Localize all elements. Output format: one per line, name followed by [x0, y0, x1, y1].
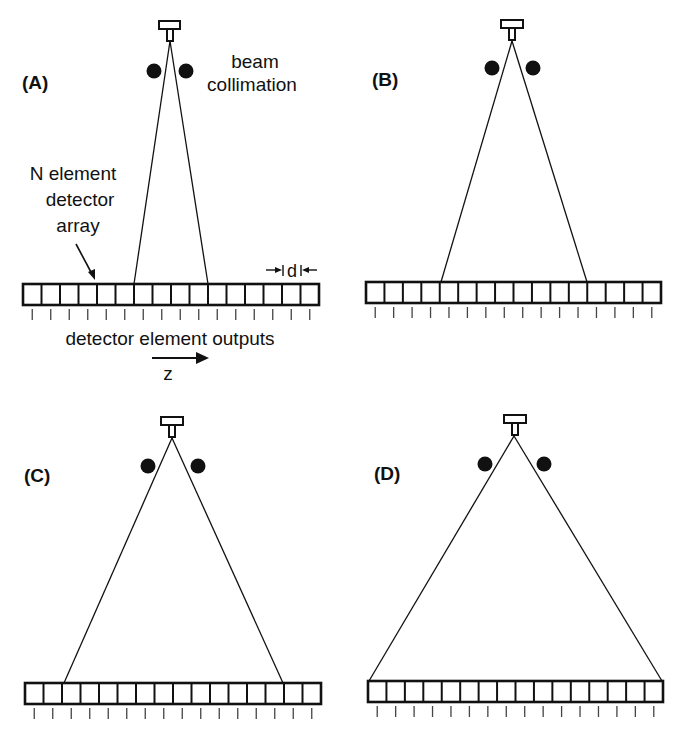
- detector-output-leads: [375, 307, 652, 318]
- panel-d: (D): [368, 415, 663, 717]
- panel-c: (C): [24, 417, 321, 719]
- z-axis-label: z: [163, 363, 173, 384]
- z-direction-arrow: [152, 352, 209, 364]
- detector-output-leads: [34, 708, 312, 719]
- collimation-label-line2: collimation: [207, 74, 297, 95]
- collimator-jaws: [485, 61, 541, 76]
- array-pointer-arrow: [76, 244, 95, 280]
- array-label-line3: array: [56, 215, 100, 236]
- panel-label-b: (B): [372, 69, 398, 90]
- panel-label-a: (A): [22, 72, 48, 93]
- xray-source-icon: [159, 21, 180, 41]
- collimator-left-icon: [141, 459, 156, 474]
- collimator-left-icon: [478, 457, 493, 472]
- xray-beam-fan: [369, 436, 662, 681]
- array-label-line1: N element: [30, 163, 117, 184]
- collimator-right-icon: [537, 457, 552, 472]
- xray-beam-fan: [64, 438, 283, 683]
- collimator-left-icon: [147, 64, 162, 79]
- beam-label-line1: beam: [231, 51, 279, 72]
- collimator-left-icon: [485, 61, 500, 76]
- xray-source-icon: [504, 415, 526, 435]
- collimator-right-icon: [526, 61, 541, 76]
- collimator-jaws: [141, 459, 206, 474]
- detector-output-leads: [377, 706, 654, 717]
- collimator-jaws: [147, 64, 194, 79]
- collimator-right-icon: [191, 459, 206, 474]
- array-label-line2: detector: [46, 189, 115, 210]
- xray-source-icon: [161, 417, 183, 437]
- outputs-label: detector element outputs: [65, 328, 274, 349]
- panel-b: (B): [366, 20, 661, 318]
- ct-detector-diagram: (A)(B)(C)(D) beam collimation N element …: [0, 0, 678, 731]
- xray-source-icon: [501, 20, 523, 40]
- collimator-jaws: [478, 457, 552, 472]
- detector-array: [25, 683, 321, 704]
- pitch-label: d: [287, 261, 297, 281]
- collimator-right-icon: [179, 64, 194, 79]
- detector-array: [368, 681, 663, 702]
- detector-array: [23, 284, 319, 305]
- detector-output-leads: [32, 309, 310, 320]
- panels: (A)(B)(C)(D): [22, 20, 663, 719]
- detector-array: [366, 282, 661, 303]
- xray-beam-fan: [441, 41, 587, 282]
- panel-label-c: (C): [24, 465, 50, 486]
- panel-label-d: (D): [374, 463, 400, 484]
- xray-beam-fan: [134, 41, 208, 284]
